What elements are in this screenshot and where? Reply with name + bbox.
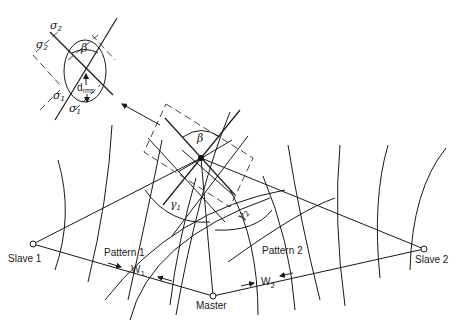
hyperbola-p1-a — [55, 160, 65, 270]
hyperbola-p1-b — [88, 125, 112, 282]
station-slave1 — [30, 241, 36, 247]
label-pattern1: Pattern 1 — [104, 247, 145, 258]
stations — [30, 241, 427, 299]
label-pattern2: Pattern 2 — [262, 245, 303, 256]
label-slave2: Slave 2 — [415, 254, 449, 265]
inset-dash-5 — [33, 55, 60, 85]
pattern2-hyperbolas — [230, 145, 446, 315]
hyperbola-p2-e — [263, 176, 295, 310]
hyperbola-p2-d — [410, 148, 446, 270]
fix-crossing-lines — [148, 110, 248, 236]
label-inset-beta: β — [80, 42, 87, 55]
baseline-master-slave2 — [213, 249, 424, 296]
baselines — [33, 244, 424, 296]
label-w2: W2 — [261, 276, 275, 290]
diagram-svg: Slave 1 Master Slave 2 Pattern 1 Pattern… — [0, 0, 465, 329]
label-sigma1-inner: σ1 — [53, 89, 65, 103]
station-lines — [33, 158, 424, 296]
station-master — [210, 293, 216, 299]
label-master: Master — [196, 300, 227, 311]
label-sigma2-inner: σ2 — [36, 38, 49, 52]
label-sigma2-outer: σ2 — [50, 19, 63, 33]
label-beta: β — [196, 132, 203, 145]
label-gamma1: γ1 — [170, 198, 181, 212]
station-slave2 — [421, 246, 427, 252]
hyperbola-p2-f — [230, 190, 258, 315]
w2-arrow-left — [241, 283, 254, 286]
hyperbolic-navigation-diagram: Slave 1 Master Slave 2 Pattern 1 Pattern… — [0, 0, 465, 329]
hyperbola-p2-b — [337, 145, 345, 306]
fix-point — [198, 155, 204, 161]
label-slave1: Slave 1 — [8, 253, 42, 264]
label-sigma1-outer: σ1 — [69, 102, 81, 116]
inset-leader-arrow — [122, 104, 160, 125]
hyperbola-p2-a — [288, 145, 320, 300]
pattern1-hyperbolas — [55, 112, 230, 315]
